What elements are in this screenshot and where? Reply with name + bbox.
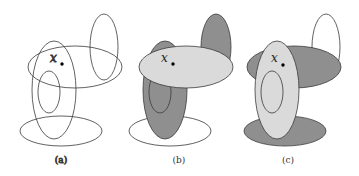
point-label: x — [161, 51, 168, 65]
panel-a: x (a) — [20, 14, 122, 165]
panel-c: x (c) — [244, 14, 341, 165]
ellipse-diagram: x (a) x (b) x (c) — [0, 0, 359, 176]
point-x — [60, 62, 63, 65]
caption-b: (b) — [173, 155, 186, 165]
ellipse-inner — [261, 71, 283, 113]
ellipse-horizontal — [139, 46, 233, 88]
ellipse-horizontal — [28, 46, 122, 88]
panel-b: x (b) — [129, 14, 233, 165]
ellipse-bottom — [20, 116, 102, 146]
ellipse-inner — [38, 71, 60, 113]
ellipse-top-right — [90, 14, 118, 80]
point-x — [171, 62, 174, 65]
point-x — [281, 63, 284, 66]
caption-c: (c) — [282, 155, 294, 165]
point-label: x — [271, 51, 278, 65]
caption-a: (a) — [55, 155, 67, 165]
point-label: x — [50, 51, 57, 65]
